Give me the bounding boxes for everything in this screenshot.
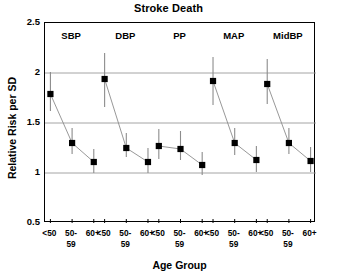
- x-axis-tick-label-line: 50-: [119, 228, 131, 239]
- plot-svg: [45, 23, 316, 223]
- x-axis-tick-label-line: 50-: [282, 228, 294, 239]
- x-axis-tick-label: <50: [259, 228, 273, 239]
- x-axis-tick-label-line: 60+: [303, 228, 317, 239]
- y-axis-tick-label: 1.5: [4, 116, 40, 127]
- data-point-marker: [47, 91, 53, 97]
- x-axis-tick-label: 50-59: [119, 228, 131, 249]
- data-point-marker: [286, 140, 292, 146]
- data-point-marker: [210, 78, 216, 84]
- data-point-marker: [156, 143, 162, 149]
- x-axis-tick-label: 50-59: [228, 228, 240, 249]
- x-axis-tick-label: <50: [205, 228, 219, 239]
- group-label-map: MAP: [223, 30, 244, 41]
- group-label-sbp: SBP: [61, 30, 81, 41]
- y-axis-tick-label: 1: [4, 166, 40, 177]
- data-point-marker: [307, 158, 313, 164]
- data-point-marker: [253, 157, 259, 163]
- data-point-marker: [145, 159, 151, 165]
- data-point-marker: [264, 81, 270, 87]
- x-axis-tick-label-line: 59: [228, 239, 240, 250]
- data-point-marker: [199, 162, 205, 168]
- group-label-dbp: DBP: [115, 30, 135, 41]
- x-axis-tick-label: <50: [97, 228, 111, 239]
- x-axis-tick-label-line: 59: [282, 239, 294, 250]
- x-axis-tick-label-line: <50: [42, 228, 56, 239]
- y-axis-tick-labels: 0.511.522.5: [0, 0, 40, 278]
- x-axis-tick-label: 50-59: [174, 228, 186, 249]
- x-axis-tick-label: <50: [42, 228, 56, 239]
- data-point-marker: [123, 145, 129, 151]
- x-axis-tick-label-line: 59: [174, 239, 186, 250]
- chart-title: Stroke Death: [0, 2, 337, 14]
- data-point-marker: [232, 140, 238, 146]
- x-axis-tick-label-line: 59: [65, 239, 77, 250]
- x-axis-tick-label-line: <50: [151, 228, 165, 239]
- y-axis-tick-label: 2.5: [4, 16, 40, 27]
- group-label-midbp: MidBP: [273, 30, 303, 41]
- x-axis-tick-label-line: <50: [97, 228, 111, 239]
- y-axis-tick-label: 2: [4, 66, 40, 77]
- x-axis-tick-label: 50-59: [65, 228, 77, 249]
- x-axis-tick-label: <50: [151, 228, 165, 239]
- x-axis-tick-label-line: 50-: [65, 228, 77, 239]
- x-axis-label: Age Group: [44, 259, 315, 271]
- x-axis-tick-label-line: 50-: [174, 228, 186, 239]
- x-axis-tick-label-line: 50-: [228, 228, 240, 239]
- x-axis-tick-label-line: <50: [205, 228, 219, 239]
- y-axis-tick-label: 0.5: [4, 216, 40, 227]
- data-point-marker: [91, 159, 97, 165]
- x-axis-tick-label-line: <50: [259, 228, 273, 239]
- x-axis-tick-label: 60+: [303, 228, 317, 239]
- group-label-pp: PP: [173, 30, 186, 41]
- data-point-marker: [177, 146, 183, 152]
- plot-area: [44, 22, 315, 222]
- data-point-marker: [102, 76, 108, 82]
- x-axis-tick-label-line: 59: [119, 239, 131, 250]
- chart-figure: Stroke Death Relative Risk per SD 0.511.…: [0, 0, 337, 278]
- x-axis-tick-label: 50-59: [282, 228, 294, 249]
- data-point-marker: [69, 140, 75, 146]
